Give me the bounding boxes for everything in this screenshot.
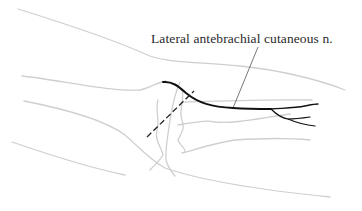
humerus-line-a bbox=[166, 82, 180, 176]
radius-upper-edge bbox=[185, 100, 312, 102]
ulna-edge bbox=[182, 139, 310, 154]
nerve-label: Lateral antebrachial cutaneous n. bbox=[151, 31, 333, 47]
label-leader-line bbox=[233, 47, 258, 108]
lateral-antebrachial-cutaneous-nerve bbox=[163, 82, 318, 126]
upper-limb-contour bbox=[18, 9, 345, 90]
elbow-contour-upper bbox=[22, 76, 166, 90]
lower-limb-contour bbox=[12, 142, 125, 175]
anatomy-figure: Lateral antebrachial cutaneous n. bbox=[0, 0, 362, 211]
condyle-line bbox=[178, 90, 185, 152]
radius-lower-edge bbox=[178, 114, 290, 125]
incision-dashed-line bbox=[147, 91, 194, 137]
